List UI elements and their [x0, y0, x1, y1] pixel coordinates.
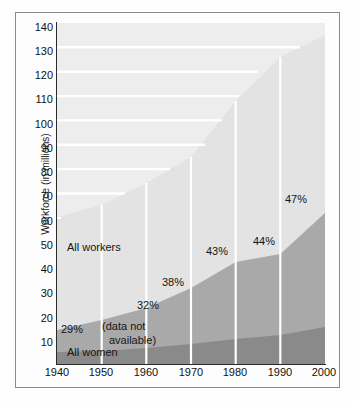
y-tick-70: 70: [19, 191, 53, 202]
x-tick-1980: 1980: [212, 367, 258, 378]
x-tick-1940: 1940: [34, 367, 80, 378]
y-tick-90: 90: [19, 143, 53, 154]
y-tick-20: 20: [19, 313, 53, 324]
annotation-29pct: 29%: [61, 323, 83, 336]
x-tick-2000: 2000: [301, 367, 347, 378]
x-tick-1990: 1990: [257, 367, 303, 378]
x-axis-line: [56, 364, 326, 365]
y-tick-50: 50: [19, 240, 53, 251]
y-tick-120: 120: [19, 70, 53, 81]
annotation-32pct: 32%: [137, 299, 159, 312]
chart-figure: Workforce (in millions) 140 130 120 110 …: [0, 0, 355, 403]
y-tick-130: 130: [19, 46, 53, 57]
y-tick-110: 110: [19, 94, 53, 105]
x-tick-1950: 1950: [78, 367, 124, 378]
y-axis-ticks: 140 130 120 110 100 90 80 70 60 50 40 30…: [15, 0, 53, 403]
y-tick-140: 140: [19, 22, 53, 33]
y-tick-10: 10: [19, 337, 53, 348]
y-tick-80: 80: [19, 167, 53, 178]
x-tick-1960: 1960: [123, 367, 169, 378]
series-label-all-women: All women: [67, 346, 118, 359]
annotation-38pct: 38%: [162, 276, 184, 289]
y-tick-100: 100: [19, 119, 53, 130]
x-tick-1970: 1970: [168, 367, 214, 378]
y-axis-line: [56, 22, 57, 365]
x-axis-ticks: 1940 1950 1960 1970 1980 1990 2000: [0, 367, 355, 385]
plot-area: All workers 29% 32% (data not available)…: [57, 23, 325, 364]
annotation-47pct: 47%: [285, 193, 307, 206]
annotation-data-not-available-line2: available): [109, 334, 156, 347]
annotation-44pct: 44%: [253, 235, 275, 248]
annotation-data-not-available-line1: (data not: [102, 320, 145, 333]
series-label-all-workers: All workers: [67, 241, 121, 254]
y-tick-30: 30: [19, 288, 53, 299]
y-tick-40: 40: [19, 264, 53, 275]
y-tick-60: 60: [19, 216, 53, 227]
annotation-43pct: 43%: [206, 245, 228, 258]
